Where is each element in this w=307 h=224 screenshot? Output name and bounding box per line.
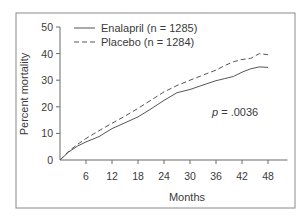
x-tick-label: 12: [106, 170, 118, 182]
survival-chart: 01020304050612182430364248 Enalapril (n …: [0, 0, 307, 224]
y-tick-label: 40: [41, 48, 53, 60]
p-value: = .0036: [218, 106, 258, 118]
y-tick-label: 20: [41, 101, 53, 113]
x-tick-label: 30: [184, 170, 196, 182]
x-tick-label: 42: [236, 170, 248, 182]
y-tick-label: 30: [41, 74, 53, 86]
y-axis-title: Percent mortality: [18, 52, 30, 135]
x-tick-label: 24: [158, 170, 170, 182]
x-tick-label: 18: [132, 170, 144, 182]
x-axis-title: Months: [169, 191, 206, 203]
y-tick-label: 50: [41, 21, 53, 33]
x-tick-label: 6: [83, 170, 89, 182]
p-symbol: p: [211, 106, 218, 118]
y-tick-label: 0: [47, 154, 53, 166]
legend-label: Enalapril (n = 1285): [101, 22, 197, 34]
x-tick-label: 48: [262, 170, 274, 182]
y-tick-label: 10: [41, 127, 53, 139]
legend-label: Placebo (n = 1284): [101, 36, 194, 48]
x-tick-label: 36: [210, 170, 222, 182]
p-value-annotation: p = .0036: [211, 106, 258, 118]
